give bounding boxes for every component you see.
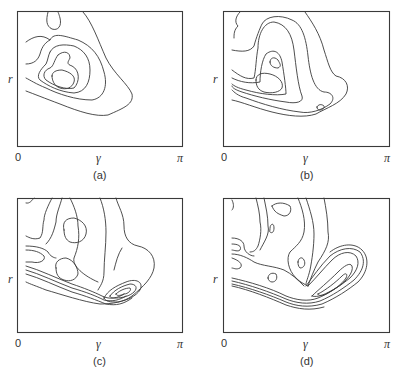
y-axis-label-a: r: [8, 73, 13, 85]
x-tick-0-a: 0: [15, 152, 21, 163]
y-axis-label-d: r: [213, 273, 218, 285]
panel-c: r 0 γ π (c): [0, 186, 200, 372]
caption-b: (b): [300, 170, 313, 181]
x-tick-0-c: 0: [15, 338, 21, 349]
x-tick-pi-c: π: [177, 338, 183, 350]
y-axis-label-c: r: [8, 273, 13, 285]
panel-a: r 0 γ π (a): [0, 0, 200, 186]
x-axis-label-a: γ: [96, 152, 101, 164]
contour-plot-d: [200, 186, 400, 372]
panel-b: r 0 γ π (b): [200, 0, 400, 186]
x-tick-0-b: 0: [221, 152, 227, 163]
x-tick-pi-a: π: [177, 152, 183, 164]
contour-plot-b: [200, 0, 400, 186]
x-tick-0-d: 0: [221, 338, 227, 349]
x-axis-label-b: γ: [303, 152, 308, 164]
caption-d: (d): [300, 356, 313, 367]
caption-a: (a): [93, 170, 106, 181]
x-axis-label-c: γ: [96, 338, 101, 350]
x-axis-label-d: γ: [303, 338, 308, 350]
panel-d: r 0 γ π (d): [200, 186, 400, 372]
x-tick-pi-d: π: [384, 338, 390, 350]
y-axis-label-b: r: [213, 73, 218, 85]
x-tick-pi-b: π: [384, 152, 390, 164]
caption-c: (c): [93, 356, 106, 367]
